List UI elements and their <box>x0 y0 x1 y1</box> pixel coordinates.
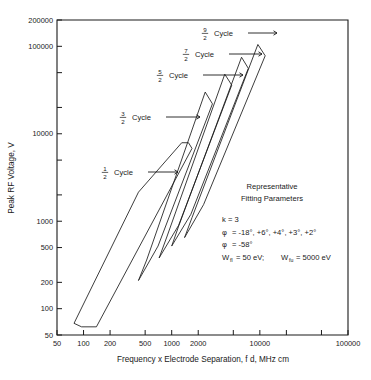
y-tick-label: 100 <box>41 304 53 313</box>
cycle-band-group <box>74 44 265 326</box>
cycle-band-1-over-2 <box>74 143 192 327</box>
fraction-denominator: 2 <box>158 76 162 83</box>
params-heading-line2: Fitting Parameters <box>241 194 303 203</box>
param-phi-value-2: = -58° <box>232 240 253 249</box>
cycle-label-group: 12Cycle32Cycle52Cycle72Cycle92Cycle <box>102 26 277 180</box>
cycle-band-9-over-2 <box>185 44 266 237</box>
x-axis-title: Frequency x Electrode Separation, f d, M… <box>117 355 289 364</box>
param-phi-symbol-1: φ <box>222 228 227 237</box>
cycle-annotation-3-over-2: 32Cycle <box>120 110 200 125</box>
param-w-symbol-fu: W <box>281 253 289 262</box>
x-tick-label: 100 <box>77 339 89 348</box>
log-log-plot: 501002005001000200010000100000 501002005… <box>0 0 371 380</box>
param-phi-symbol-2: φ <box>222 240 227 249</box>
fraction-numerator: 9 <box>203 26 207 33</box>
param-w-fu-value: = 5000 eV <box>296 253 332 262</box>
params-heading-line1: Representative <box>246 182 297 191</box>
x-tick-group: 501002005001000200010000100000 <box>53 330 360 348</box>
y-tick-label: 500 <box>41 243 53 252</box>
y-axis-title: Peak RF Voltage, V <box>7 142 16 214</box>
cycle-label-text: Cycle <box>195 50 214 59</box>
fraction-denominator: 2 <box>121 118 125 125</box>
fraction-numerator: 5 <box>158 68 162 75</box>
fraction-denominator: 2 <box>203 34 207 41</box>
x-tick-label: 100000 <box>336 339 361 348</box>
param-w-fl-value: = 50 eV; <box>236 253 264 262</box>
fraction-numerator: 7 <box>184 47 188 54</box>
x-tick-label: 200 <box>104 339 116 348</box>
param-w-fl-subscript: fl <box>230 257 233 263</box>
cycle-band-5-over-2 <box>159 74 232 258</box>
x-tick-label: 10000 <box>250 339 271 348</box>
cycle-annotation-9-over-2: 92Cycle <box>202 26 277 41</box>
cycle-label-text: Cycle <box>114 168 133 177</box>
y-tick-label: 200 <box>41 278 53 287</box>
fraction-denominator: 2 <box>103 173 107 180</box>
fraction-denominator: 2 <box>184 55 188 62</box>
fraction-numerator: 3 <box>121 110 125 117</box>
cycle-annotation-1-over-2: 12Cycle <box>102 165 178 180</box>
y-tick-label: 50 <box>45 331 53 340</box>
axis-group <box>57 20 348 335</box>
x-tick-label: 1000 <box>163 339 179 348</box>
fraction-numerator: 1 <box>103 165 107 172</box>
x-tick-label: 2000 <box>190 339 206 348</box>
chart-figure: 501002005001000200010000100000 501002005… <box>0 0 371 380</box>
cycle-label-text: Cycle <box>169 71 188 80</box>
y-tick-label: 100000 <box>28 42 53 51</box>
cycle-label-text: Cycle <box>132 113 151 122</box>
param-phi-values-1: = -18°, +6°, +4°, +3°, +2° <box>232 228 316 237</box>
param-w-fu-subscript: fu <box>289 257 293 263</box>
x-tick-label: 50 <box>53 339 61 348</box>
param-k-line: k = 3 <box>222 215 239 224</box>
y-tick-label: 10000 <box>32 129 53 138</box>
cycle-annotation-7-over-2: 72Cycle <box>183 47 262 62</box>
y-tick-label: 200000 <box>28 16 53 25</box>
cycle-label-text: Cycle <box>214 29 233 38</box>
cycle-annotation-5-over-2: 52Cycle <box>157 68 243 83</box>
y-tick-label: 1000 <box>37 217 53 226</box>
x-tick-label: 500 <box>139 339 151 348</box>
fitting-parameters-box: Representative Fitting Parameters k = 3 … <box>222 182 332 263</box>
param-w-symbol-fl: W <box>222 253 230 262</box>
